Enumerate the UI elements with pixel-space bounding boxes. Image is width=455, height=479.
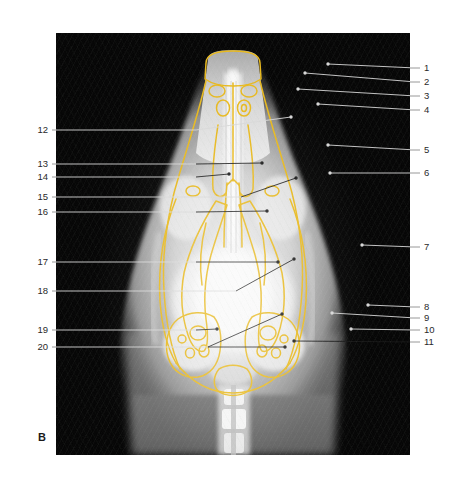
label-number-15: 15: [22, 192, 48, 202]
label-number-13: 13: [22, 159, 48, 169]
leader-lines-overlay: [56, 33, 410, 455]
label-number-11: 11: [424, 337, 434, 347]
label-number-17: 17: [22, 257, 48, 267]
radiograph-plate: R L: [56, 33, 410, 455]
label-number-20: 20: [22, 342, 48, 352]
label-number-19: 19: [22, 325, 48, 335]
label-number-3: 3: [424, 91, 429, 101]
label-number-4: 4: [424, 105, 429, 115]
label-number-9: 9: [424, 313, 429, 323]
radiograph-figure: R L B 1234567891011121314151617181920: [0, 0, 455, 479]
label-number-18: 18: [22, 286, 48, 296]
label-number-6: 6: [424, 168, 429, 178]
label-number-12: 12: [22, 125, 48, 135]
panel-letter: B: [38, 431, 46, 443]
label-number-1: 1: [424, 63, 429, 73]
label-number-10: 10: [424, 325, 435, 335]
label-number-8: 8: [424, 302, 429, 312]
label-number-7: 7: [424, 242, 429, 252]
label-number-16: 16: [22, 207, 48, 217]
label-number-2: 2: [424, 77, 429, 87]
label-number-14: 14: [22, 172, 48, 182]
label-number-5: 5: [424, 145, 429, 155]
